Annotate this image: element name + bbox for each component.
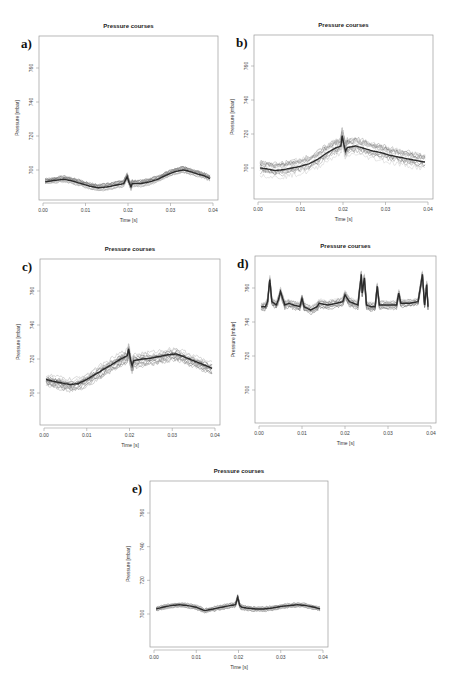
y-tick-label: 740 <box>28 98 34 107</box>
x-axis: 0.000.010.020.030.04 <box>254 426 436 436</box>
y-tick-label: 760 <box>28 64 34 73</box>
y-tick-label: 760 <box>244 284 250 293</box>
chart-svg: Pressure courses b) 700720740760 0.000.0… <box>254 35 433 199</box>
y-tick-label: 760 <box>243 62 249 71</box>
x-tick-label: 0.03 <box>166 207 176 213</box>
y-axis: 700720740760 <box>243 62 254 173</box>
traces <box>261 271 428 315</box>
y-tick-label: 700 <box>244 386 250 395</box>
traces <box>45 167 210 191</box>
x-tick-label: 0.01 <box>81 207 91 213</box>
y-axis-label: Pressure [mbar] <box>14 100 20 136</box>
x-tick-label: 0.04 <box>318 654 328 660</box>
chart-svg: Pressure courses d) 700720740760 0.000.0… <box>255 256 436 423</box>
trace-line <box>46 354 212 392</box>
chart-panel-b: Pressure courses b) 700720740760 0.000.0… <box>254 35 433 199</box>
x-axis-label: Time [s] <box>230 664 248 670</box>
x-tick-label: 0.04 <box>423 206 433 212</box>
x-tick-label: 0.02 <box>338 206 348 212</box>
x-tick-label: 0.02 <box>234 654 244 660</box>
plot-frame <box>254 35 433 199</box>
x-tick-label: 0.04 <box>426 430 436 436</box>
chart-panel-d: Pressure courses d) 700720740760 0.000.0… <box>255 256 436 423</box>
x-axis: 0.000.010.020.030.04 <box>253 202 433 212</box>
x-tick-label: 0.03 <box>167 432 177 438</box>
y-tick-label: 700 <box>29 389 35 398</box>
chart-title: Pressure courses <box>214 468 265 474</box>
x-axis-label: Time [s] <box>121 442 139 448</box>
x-axis: 0.000.010.020.030.04 <box>39 428 220 438</box>
y-tick-label: 700 <box>28 166 34 175</box>
y-tick-label: 760 <box>139 509 145 518</box>
y-tick-label: 720 <box>28 132 34 141</box>
x-axis-label: Time [s] <box>120 217 138 223</box>
y-tick-label: 740 <box>29 321 35 330</box>
y-tick-label: 720 <box>139 576 145 585</box>
x-tick-label: 0.00 <box>149 654 159 660</box>
traces <box>260 128 425 180</box>
x-tick-label: 0.00 <box>253 206 263 212</box>
panel-label: b) <box>236 35 248 50</box>
x-tick-label: 0.00 <box>39 432 49 438</box>
x-tick-label: 0.04 <box>210 432 220 438</box>
plot-frame <box>150 481 328 647</box>
x-tick-label: 0.02 <box>123 207 133 213</box>
y-tick-label: 720 <box>29 355 35 364</box>
y-axis-label: Pressure [mbar] <box>15 324 21 360</box>
x-tick-label: 0.02 <box>340 430 350 436</box>
y-axis-label: Pressure [mbar] <box>229 99 235 135</box>
y-axis: 700720740760 <box>29 287 40 398</box>
y-tick-label: 700 <box>243 164 249 173</box>
x-axis: 0.000.010.020.030.04 <box>149 650 328 660</box>
chart-svg: Pressure courses c) 700720740760 0.000.0… <box>40 259 220 425</box>
traces <box>46 344 212 393</box>
y-tick-label: 740 <box>243 96 249 105</box>
chart-title: Pressure courses <box>320 243 371 249</box>
y-axis: 700720740760 <box>139 509 150 619</box>
x-tick-label: 0.04 <box>208 207 218 213</box>
y-axis: 700720740760 <box>28 64 39 175</box>
x-tick-label: 0.01 <box>296 206 306 212</box>
chart-title: Pressure courses <box>105 246 156 252</box>
y-tick-label: 760 <box>29 287 35 296</box>
chart-svg: Pressure courses a) 700720740760 0.000.0… <box>39 36 218 200</box>
x-tick-label: 0.03 <box>383 430 393 436</box>
x-tick-label: 0.02 <box>125 432 135 438</box>
x-axis-label: Time [s] <box>335 216 353 222</box>
x-tick-label: 0.01 <box>191 654 201 660</box>
panel-label: c) <box>22 259 32 274</box>
x-axis-label: Time [s] <box>337 440 355 446</box>
y-tick-label: 740 <box>244 318 250 327</box>
chart-svg: Pressure courses e) 700720740760 0.000.0… <box>150 481 328 647</box>
x-tick-label: 0.00 <box>254 430 264 436</box>
y-tick-label: 720 <box>243 130 249 139</box>
panel-label: e) <box>132 481 142 496</box>
y-axis-label: Pressure [mbar] <box>125 546 131 582</box>
chart-title: Pressure courses <box>318 22 369 28</box>
plot-frame <box>255 256 436 423</box>
x-tick-label: 0.01 <box>297 430 307 436</box>
plot-frame <box>39 36 218 200</box>
traces <box>156 595 320 613</box>
y-axis: 700720740760 <box>244 284 255 395</box>
panel-label: a) <box>21 36 32 51</box>
chart-title: Pressure courses <box>103 23 154 29</box>
x-tick-label: 0.01 <box>82 432 92 438</box>
chart-panel-c: Pressure courses c) 700720740760 0.000.0… <box>40 259 220 425</box>
x-tick-label: 0.03 <box>381 206 391 212</box>
y-tick-label: 700 <box>139 610 145 619</box>
x-tick-label: 0.00 <box>38 207 48 213</box>
plot-frame <box>40 259 220 425</box>
y-tick-label: 720 <box>244 352 250 361</box>
chart-panel-e: Pressure courses e) 700720740760 0.000.0… <box>150 481 328 647</box>
y-axis-label: Pressure [mbar] <box>230 321 236 357</box>
panel-label: d) <box>237 256 249 271</box>
x-axis: 0.000.010.020.030.04 <box>38 203 218 213</box>
x-tick-label: 0.03 <box>276 654 286 660</box>
chart-panel-a: Pressure courses a) 700720740760 0.000.0… <box>39 36 218 200</box>
y-tick-label: 740 <box>139 542 145 551</box>
